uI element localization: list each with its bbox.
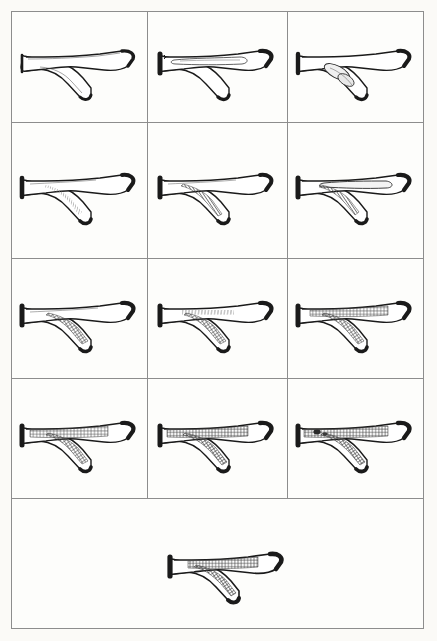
vessel-drawing-9 bbox=[294, 282, 418, 356]
vessel-drawing-8 bbox=[156, 282, 280, 356]
panel-cell-10[interactable] bbox=[12, 379, 148, 498]
vessel-drawing-11 bbox=[156, 402, 280, 476]
panel-cell-9[interactable] bbox=[288, 259, 423, 378]
panel-cell-2[interactable] bbox=[148, 12, 288, 122]
vessel-drawing-1 bbox=[18, 30, 142, 104]
vessel-drawing-4 bbox=[18, 154, 142, 228]
vessel-drawing-6 bbox=[294, 154, 418, 228]
vessel-drawing-2 bbox=[156, 30, 280, 104]
panel-cell-1[interactable] bbox=[12, 12, 148, 122]
vessel-drawing-10 bbox=[18, 402, 142, 476]
figure-row-3 bbox=[12, 259, 423, 379]
figure-row-5 bbox=[12, 499, 423, 628]
vessel-drawing-3 bbox=[294, 30, 418, 104]
vessel-drawing-5 bbox=[156, 154, 280, 228]
figure-row-2 bbox=[12, 123, 423, 259]
figure-panel-grid bbox=[11, 11, 424, 629]
vessel-drawing-13 bbox=[166, 533, 270, 595]
panel-cell-4[interactable] bbox=[12, 123, 148, 258]
panel-cell-8[interactable] bbox=[148, 259, 288, 378]
panel-cell-6[interactable] bbox=[288, 123, 423, 258]
panel-cell-3[interactable] bbox=[288, 12, 423, 122]
vessel-drawing-7 bbox=[18, 282, 142, 356]
figure-row-1 bbox=[12, 12, 423, 123]
vessel-drawing-12 bbox=[294, 402, 418, 476]
panel-cell-12[interactable] bbox=[288, 379, 423, 498]
panel-cell-5[interactable] bbox=[148, 123, 288, 258]
panel-cell-11[interactable] bbox=[148, 379, 288, 498]
panel-cell-7[interactable] bbox=[12, 259, 148, 378]
figure-row-4 bbox=[12, 379, 423, 499]
figure-rows bbox=[12, 12, 423, 628]
panel-cell-13[interactable] bbox=[12, 499, 423, 628]
